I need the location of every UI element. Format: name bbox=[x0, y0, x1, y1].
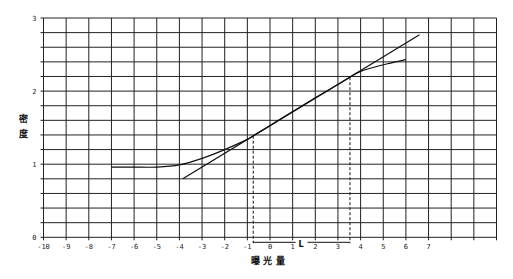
x-axis-label: 曝 光 量 bbox=[251, 255, 284, 266]
x-tick-label: -8 bbox=[85, 243, 93, 251]
x-tick-label: 6 bbox=[404, 243, 408, 251]
x-tick-label: 2 bbox=[313, 243, 317, 251]
y-tick-label: 3 bbox=[32, 15, 36, 23]
y-axis-label-bottom: 度 bbox=[19, 128, 29, 139]
x-tick-label: -3 bbox=[198, 243, 206, 251]
x-tick-label: 7 bbox=[426, 243, 430, 251]
x-tick-label: 5 bbox=[381, 243, 385, 251]
x-tick-label: -6 bbox=[130, 243, 138, 251]
x-tick-label: -10 bbox=[37, 243, 50, 251]
series bbox=[111, 35, 419, 179]
y-axis-label-top: 密 bbox=[18, 113, 28, 124]
y-tick-label: 1 bbox=[32, 161, 36, 169]
x-tick-label: 0 bbox=[268, 243, 272, 251]
x-tick-label: -5 bbox=[153, 243, 161, 251]
x-tick-label: -9 bbox=[62, 243, 70, 251]
x-axis-ticks: -10-9-8-7-6-5-4-3-2-101234567 bbox=[37, 243, 430, 251]
x-tick-label: -4 bbox=[175, 243, 183, 251]
x-tick-label: -2 bbox=[220, 243, 228, 251]
x-tick-label: -1 bbox=[243, 243, 251, 251]
y-tick-label: 2 bbox=[32, 88, 36, 96]
x-tick-label: 4 bbox=[358, 243, 362, 251]
span-label-L: L bbox=[298, 240, 303, 249]
x-tick-label: 1 bbox=[291, 243, 295, 251]
grid bbox=[41, 18, 497, 240]
characteristic-curve bbox=[111, 60, 405, 168]
characteristic-curve-chart: 0123 -10-9-8-7-6-5-4-3-2-101234567 密 度 曝… bbox=[0, 0, 513, 279]
x-tick-label: 3 bbox=[336, 243, 340, 251]
annotations bbox=[253, 77, 350, 243]
y-tick-label: 0 bbox=[32, 234, 36, 242]
tangent-line bbox=[183, 35, 420, 179]
x-tick-label: -7 bbox=[107, 243, 115, 251]
y-axis-ticks: 0123 bbox=[32, 15, 36, 242]
